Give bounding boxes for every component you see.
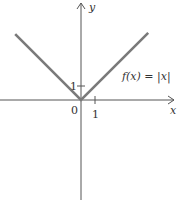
y-axis-label: y	[88, 1, 96, 14]
x-axis-label: x	[170, 104, 177, 117]
chart: x y 0 1 1 f(x) = |x|	[0, 0, 183, 203]
series-line-abs-x	[15, 33, 148, 100]
origin-label: 0	[71, 104, 78, 117]
function-label: f(x) = |x|	[121, 70, 171, 84]
y-tick-label-1: 1	[70, 80, 77, 93]
x-tick-label-1: 1	[92, 108, 99, 121]
series-layer	[15, 33, 148, 100]
